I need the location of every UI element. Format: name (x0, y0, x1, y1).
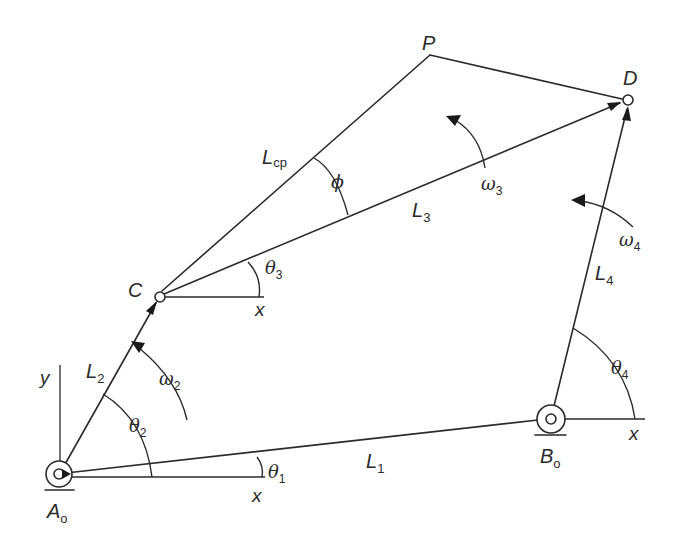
label-c: C (128, 279, 143, 301)
label-theta1: θ1 (268, 461, 286, 486)
pin-joint-d (623, 95, 633, 105)
link-l2 (64, 303, 156, 466)
link-pd (430, 55, 622, 99)
label-l4: L4 (595, 262, 613, 288)
omega4-arc (580, 201, 633, 227)
label-l1: L1 (366, 450, 384, 476)
label-p: P (422, 32, 436, 54)
label-theta2: θ2 (129, 415, 147, 440)
label-x-axis-a0: x (251, 485, 263, 506)
theta3-arc (248, 262, 260, 297)
label-omega3: ω3 (481, 173, 503, 198)
label-y-axis: y (38, 367, 51, 388)
label-b0: Bo (540, 445, 561, 471)
label-theta4: θ4 (611, 357, 629, 382)
label-l2: L2 (86, 360, 104, 386)
link-l3 (164, 103, 620, 294)
label-omega2: ω2 (159, 368, 181, 393)
theta1-arc (257, 457, 262, 477)
four-bar-linkage-diagram: P D C Ao Bo L1 L2 L3 L4 Lcp θ1 θ2 θ3 θ4 … (0, 0, 680, 548)
ground-pivot-a0 (45, 461, 74, 490)
l2-arrowhead-icon (146, 301, 157, 315)
label-x-axis-c: x (254, 299, 266, 320)
label-phi: ϕ (331, 170, 344, 192)
label-x-axis-b0: x (628, 423, 640, 444)
label-d: D (623, 67, 637, 89)
l4-arrowhead-icon (622, 106, 631, 121)
label-theta3: θ3 (265, 257, 283, 282)
ground-pivot-b0 (535, 405, 566, 435)
l3-arrowhead-icon (607, 102, 621, 111)
label-omega4: ω4 (619, 229, 641, 254)
pin-joint-c (155, 292, 165, 302)
label-l3: L3 (412, 199, 430, 225)
omega4-arrowhead-icon (571, 194, 585, 207)
omega3-arrowhead-icon (446, 115, 461, 126)
label-lcp: Lcp (262, 146, 287, 170)
link-lcp (162, 55, 430, 291)
label-a0: Ao (46, 500, 68, 526)
